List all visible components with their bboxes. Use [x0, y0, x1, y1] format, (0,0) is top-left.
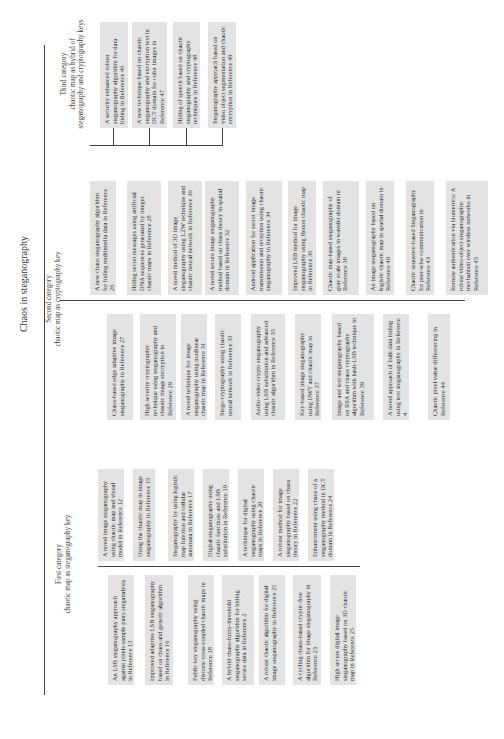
stub	[149, 128, 150, 146]
box-ref-47: A new technique based on chaotic stegano…	[132, 22, 167, 128]
box-ref-17: Steganography by using logistic map func…	[168, 469, 194, 561]
box-ref-40: An image steganography based on logistic…	[366, 181, 394, 295]
stub	[113, 128, 114, 146]
diagram-title-main: Chaos in steganography	[18, 219, 30, 349]
box-ref-46: A security enhanced robust steganography…	[100, 22, 128, 128]
box-ref-12: A novel image steganography using chaoti…	[98, 469, 124, 561]
box-ref-2: A hybrid chaos-fuzzy-threshold steganogr…	[222, 575, 254, 685]
box-ref-44: Chaotic pixel value differencing in Refe…	[428, 314, 450, 420]
first-category-spine	[98, 566, 360, 567]
category-title: Second category	[45, 234, 54, 364]
box-ref-33: Stego-cryptography using chaotic neural …	[215, 314, 241, 420]
box-ref-32: A novel secure image steganography metho…	[205, 181, 239, 295]
box-ref-13: An LSB steganography approach against pi…	[108, 575, 134, 685]
box-ref-16: Improved adaptive LSB steganography base…	[145, 575, 173, 685]
category-subtitle: chaotic map as hybrid of	[69, 9, 78, 139]
diagram-layout: A novel image steganography using chaoti…	[0, 0, 504, 739]
box-ref-29: High security cryptographic technique us…	[140, 314, 176, 420]
stub	[186, 128, 187, 146]
box-ref-21: A robust chaotic algorithm for digital i…	[259, 575, 285, 685]
category-title: Third category	[60, 9, 69, 139]
box-ref-18: Public key steganography using discrete …	[188, 575, 214, 685]
box-ref-26: A new chaos steganography algorithm for …	[90, 181, 116, 295]
category-subtitle: chaotic map as cryptography key	[54, 234, 63, 364]
box-ref-43: Chaotic sequence-based Steganography for…	[406, 181, 434, 295]
stub	[222, 128, 223, 146]
box-ref-39: Image and text steganography based on RS…	[332, 314, 374, 420]
first-category-label-2: First category chaotic map as steganogra…	[55, 499, 72, 629]
box-ref-15: Using the chaotic map in image steganogr…	[133, 469, 155, 561]
category-subtitle: chaotic map as steganography key	[64, 499, 73, 629]
box-ref-34: Android application for secret image tra…	[246, 181, 282, 295]
box-ref-49: Steganography approach based on video ob…	[208, 22, 236, 128]
box-ref-31: A novel technique for image steganograph…	[181, 314, 207, 420]
box-ref-25: High secure digital image steganography …	[330, 575, 356, 685]
box-ref-30: A novel method of 3D image steganography…	[168, 181, 202, 295]
box-ref-36: Improved LSB method for image steganogra…	[288, 181, 316, 295]
second-category-label: Second category chaotic map as cryptogra…	[45, 234, 62, 364]
box-ref-23: A cycling chaos-based cryptic-free algor…	[293, 575, 321, 685]
main-axis-line	[44, 45, 45, 695]
third-category-spine	[90, 145, 223, 146]
box-ref-4: A novel approach of bulk data hiding usi…	[383, 314, 409, 420]
box-ref-20: A technique for digital steganography us…	[238, 469, 264, 561]
box-ref-35: Audio–video crypto steganography using L…	[251, 314, 285, 420]
box-ref-45: Remote authentication via biometrics: A …	[446, 181, 488, 295]
box-ref-38: Chaotic map-based steganography of gray …	[323, 181, 359, 295]
category-title: First category	[55, 499, 64, 629]
box-ref-48: Hiding of speech based on chaotic stegan…	[173, 22, 200, 128]
box-ref-37: Key-based image steganography using DWT …	[295, 314, 321, 420]
box-ref-27: Chaos-based edge adaptive image steganog…	[107, 314, 133, 420]
third-category-label: Third category chaotic map as hybrid of …	[60, 9, 86, 139]
box-ref-19: Digital steganography using chaotic func…	[203, 469, 229, 561]
category-subtitle-2: steganography and cryptography keys	[77, 9, 86, 139]
box-ref-22: A robust method for image steganography …	[273, 469, 299, 561]
second-category-spine	[60, 300, 465, 301]
box-ref-24: Enhancement using chaos of a steganograp…	[308, 469, 334, 561]
box-ref-28: Hiding secret messages using artificial …	[127, 181, 161, 295]
